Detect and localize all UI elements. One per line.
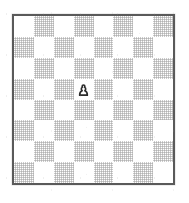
square-e8[interactable] <box>94 16 114 37</box>
square-e5[interactable] <box>94 79 114 100</box>
square-e3[interactable] <box>94 120 114 141</box>
square-c6[interactable] <box>54 58 74 79</box>
square-d3[interactable] <box>74 120 94 141</box>
square-f2[interactable] <box>113 141 133 162</box>
square-h3[interactable] <box>153 120 173 141</box>
square-h1[interactable] <box>153 162 173 183</box>
square-d7[interactable] <box>74 37 94 58</box>
square-c4[interactable] <box>54 100 74 121</box>
square-h4[interactable] <box>153 100 173 121</box>
square-g7[interactable] <box>133 37 153 58</box>
square-f3[interactable] <box>113 120 133 141</box>
square-h6[interactable] <box>153 58 173 79</box>
square-g6[interactable] <box>133 58 153 79</box>
square-b8[interactable] <box>34 16 54 37</box>
square-a3[interactable] <box>14 120 34 141</box>
square-d4[interactable] <box>74 100 94 121</box>
square-f8[interactable] <box>113 16 133 37</box>
square-g8[interactable] <box>133 16 153 37</box>
square-g5[interactable] <box>133 79 153 100</box>
square-g1[interactable] <box>133 162 153 183</box>
square-a6[interactable] <box>14 58 34 79</box>
square-c5[interactable] <box>54 79 74 100</box>
square-d8[interactable] <box>74 16 94 37</box>
square-b7[interactable] <box>34 37 54 58</box>
square-f6[interactable] <box>113 58 133 79</box>
square-e6[interactable] <box>94 58 114 79</box>
square-g2[interactable] <box>133 141 153 162</box>
square-b6[interactable] <box>34 58 54 79</box>
square-c7[interactable] <box>54 37 74 58</box>
square-d5[interactable] <box>74 79 94 100</box>
square-a5[interactable] <box>14 79 34 100</box>
square-a7[interactable] <box>14 37 34 58</box>
square-f7[interactable] <box>113 37 133 58</box>
square-h7[interactable] <box>153 37 173 58</box>
square-c8[interactable] <box>54 16 74 37</box>
square-d1[interactable] <box>74 162 94 183</box>
square-c2[interactable] <box>54 141 74 162</box>
square-h5[interactable] <box>153 79 173 100</box>
square-g4[interactable] <box>133 100 153 121</box>
square-e4[interactable] <box>94 100 114 121</box>
square-e1[interactable] <box>94 162 114 183</box>
square-b3[interactable] <box>34 120 54 141</box>
square-a4[interactable] <box>14 100 34 121</box>
square-h8[interactable] <box>153 16 173 37</box>
square-e2[interactable] <box>94 141 114 162</box>
chess-diagram <box>0 0 189 203</box>
square-a1[interactable] <box>14 162 34 183</box>
square-a8[interactable] <box>14 16 34 37</box>
board-frame <box>12 14 175 185</box>
square-f5[interactable] <box>113 79 133 100</box>
square-f4[interactable] <box>113 100 133 121</box>
square-g3[interactable] <box>133 120 153 141</box>
square-b5[interactable] <box>34 79 54 100</box>
square-b1[interactable] <box>34 162 54 183</box>
square-a2[interactable] <box>14 141 34 162</box>
square-d2[interactable] <box>74 141 94 162</box>
square-e7[interactable] <box>94 37 114 58</box>
square-b2[interactable] <box>34 141 54 162</box>
square-d6[interactable] <box>74 58 94 79</box>
square-f1[interactable] <box>113 162 133 183</box>
square-b4[interactable] <box>34 100 54 121</box>
chess-board[interactable] <box>14 16 173 183</box>
square-c3[interactable] <box>54 120 74 141</box>
square-c1[interactable] <box>54 162 74 183</box>
square-h2[interactable] <box>153 141 173 162</box>
